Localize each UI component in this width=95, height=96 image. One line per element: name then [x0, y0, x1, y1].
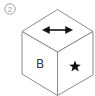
cube-drawing [0, 0, 95, 96]
face-letter-b: B [33, 57, 47, 71]
cube-figure: 2 B [0, 0, 95, 96]
